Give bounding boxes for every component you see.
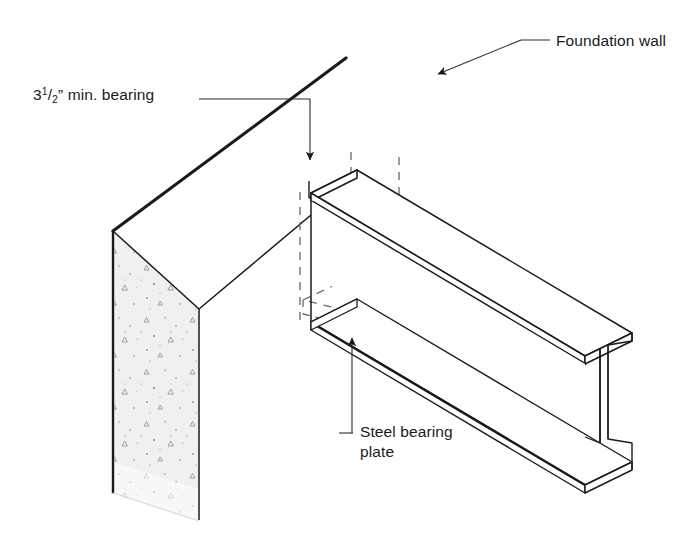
label-foundation-wall-text: Foundation wall xyxy=(556,32,666,49)
label-steel-bearing-plate-line2: plate xyxy=(360,443,394,460)
foundation-wall-leader xyxy=(438,40,550,74)
label-bearing: 31/2” min. bearing xyxy=(33,85,154,105)
label-steel-bearing-plate-line1: Steel bearing xyxy=(360,423,453,440)
label-bearing-prefix: 3 xyxy=(33,86,42,103)
label-bearing-suffix: ” min. bearing xyxy=(58,86,154,103)
label-steel-plate-line2-text: plate xyxy=(360,443,394,460)
label-foundation-wall: Foundation wall xyxy=(556,32,666,49)
label-steel-plate-line1-text: Steel bearing xyxy=(360,423,453,440)
construction-detail-drawing: Foundation wall 31/2” min. bearing Steel… xyxy=(0,0,696,533)
bearing-dimension-leader xyxy=(199,99,310,160)
diagram-canvas: Foundation wall 31/2” min. bearing Steel… xyxy=(0,0,696,533)
